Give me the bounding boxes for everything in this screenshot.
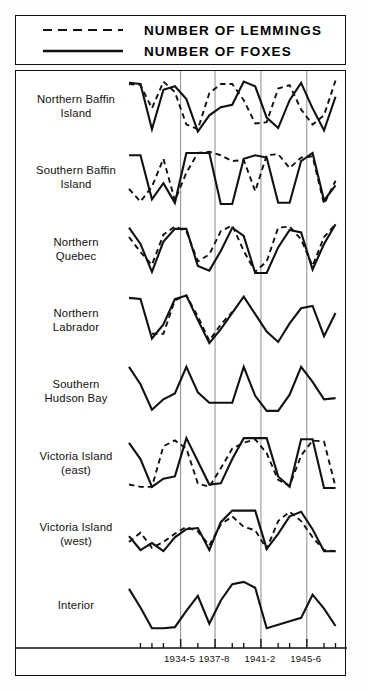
x-tick-label: 1934-5 xyxy=(164,653,195,664)
panel-label-line: (east) xyxy=(24,463,128,477)
series-line-foxes xyxy=(129,367,336,411)
panel-label-line: Quebec xyxy=(24,249,128,263)
x-tick-label: 1937-8 xyxy=(199,653,230,664)
panel-label-victoria-island-west: Victoria Island(west) xyxy=(24,520,128,548)
panel-label-line: Labrador xyxy=(24,320,128,334)
panel-label-northern-labrador: NorthernLabrador xyxy=(24,306,128,334)
panel-label-interior: Interior xyxy=(24,598,128,612)
panel-label-line: Northern Baffin xyxy=(24,92,128,106)
axis-ticks xyxy=(140,639,335,648)
panel-label-northern-baffin-island: Northern BaffinIsland xyxy=(24,92,128,120)
panel-label-line: Victoria Island xyxy=(24,520,128,534)
series-layer xyxy=(129,80,336,628)
panel-label-line: Interior xyxy=(24,598,128,612)
panel-label-line: Victoria Island xyxy=(24,449,128,463)
lemmings-foxes-figure: NUMBER OF LEMMINGS NUMBER OF FOXES North… xyxy=(0,0,368,691)
chart-canvas xyxy=(16,71,347,677)
series-line-foxes xyxy=(129,153,336,204)
series-line-lemmings xyxy=(152,296,232,341)
legend-entry-lemmings: NUMBER OF LEMMINGS xyxy=(16,19,345,41)
panel-label-line: Northern xyxy=(24,235,128,249)
panel-label-southern-hudson-bay: SouthernHudson Bay xyxy=(24,377,128,405)
chart-legend: NUMBER OF LEMMINGS NUMBER OF FOXES xyxy=(15,15,346,65)
panel-label-line: Island xyxy=(24,106,128,120)
chart-plot-frame: Northern BaffinIslandSouthern BaffinIsla… xyxy=(15,70,346,676)
panel-label-northern-quebec: NorthernQuebec xyxy=(24,235,128,263)
panel-label-line: Northern xyxy=(24,306,128,320)
panel-label-southern-baffin-island: Southern BaffinIsland xyxy=(24,163,128,191)
dashed-line-icon xyxy=(42,24,124,36)
legend-label-foxes: NUMBER OF FOXES xyxy=(144,44,292,59)
series-line-foxes xyxy=(129,296,336,344)
x-tick-label: 1941-2 xyxy=(244,653,275,664)
series-line-lemmings xyxy=(129,439,336,487)
series-line-foxes xyxy=(129,438,336,488)
gridlines xyxy=(181,71,307,648)
series-line-foxes xyxy=(129,224,336,273)
series-line-foxes xyxy=(129,582,336,628)
panel-label-line: Southern Baffin xyxy=(24,163,128,177)
legend-entry-foxes: NUMBER OF FOXES xyxy=(16,40,345,62)
legend-label-lemmings: NUMBER OF LEMMINGS xyxy=(144,23,322,38)
panel-label-line: (west) xyxy=(24,534,128,548)
panel-label-line: Hudson Bay xyxy=(24,391,128,405)
solid-line-icon xyxy=(42,45,124,57)
panel-label-victoria-island-east: Victoria Island(east) xyxy=(24,449,128,477)
panel-label-line: Southern xyxy=(24,377,128,391)
panel-label-line: Island xyxy=(24,177,128,191)
x-tick-label: 1945-6 xyxy=(290,653,321,664)
